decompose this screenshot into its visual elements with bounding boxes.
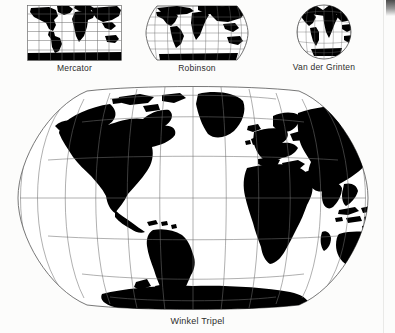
projection-thumb-robinson[interactable]: Robinson <box>142 4 252 62</box>
winkel-tripel-map-svg <box>12 84 374 312</box>
main-map-winkel-tripel[interactable] <box>12 84 374 312</box>
van-der-grinten-map-svg <box>288 3 360 61</box>
projection-thumb-label-van-der-grinten: Van der Grinten <box>293 62 355 72</box>
van-der-grinten-graticule <box>296 4 352 60</box>
projection-thumbnail-row: Mercator <box>0 0 395 82</box>
robinson-map-svg <box>142 4 252 62</box>
figure-page: Mercator <box>0 0 395 333</box>
main-map-label: Winkel Tripel <box>0 316 395 326</box>
mercator-map-svg <box>27 5 122 61</box>
projection-thumb-label-mercator: Mercator <box>57 63 92 73</box>
projection-thumb-mercator[interactable]: Mercator <box>27 5 122 61</box>
projection-thumb-label-robinson: Robinson <box>178 63 216 73</box>
projection-thumb-van-der-grinten[interactable]: Van der Grinten <box>288 3 360 61</box>
